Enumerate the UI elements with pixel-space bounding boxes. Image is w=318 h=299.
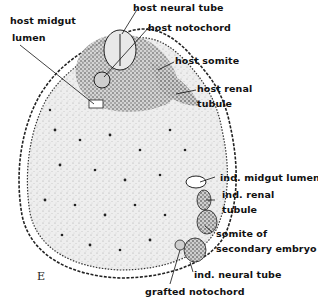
label-somite-secondary-cont: secondary embryo — [216, 243, 317, 254]
label-ind-renal-tubule: ind. renal — [222, 189, 274, 200]
host-notochord-shape — [94, 72, 110, 88]
grafted-notochord-shape — [175, 240, 185, 250]
panel-letter: E — [37, 270, 45, 283]
label-ind-midgut-lumen: ind. midgut lumen — [220, 172, 318, 183]
label-host-somite: host somite — [175, 55, 239, 66]
label-host-midgut-lumen-cont: lumen — [12, 32, 46, 43]
label-somite-secondary: somite of — [216, 228, 267, 239]
label-host-notochord: host notochord — [148, 22, 231, 33]
label-grafted-notochord: grafted notochord — [145, 286, 245, 297]
somite-secondary-shape — [197, 210, 217, 234]
embryo-cross-section-diagram — [0, 0, 318, 299]
label-host-renal-tubule: host renal — [197, 83, 252, 94]
label-host-midgut-lumen: host midgut — [10, 15, 76, 26]
label-ind-neural-tube: ind. neural tube — [194, 269, 282, 280]
ind-midgut-lumen-shape — [186, 176, 206, 188]
label-host-renal-tubule-cont: tubule — [197, 98, 232, 109]
ind-neural-tube-shape — [184, 238, 206, 262]
label-ind-renal-tubule-cont: tubule — [222, 204, 257, 215]
label-host-neural-tube: host neural tube — [133, 2, 224, 13]
